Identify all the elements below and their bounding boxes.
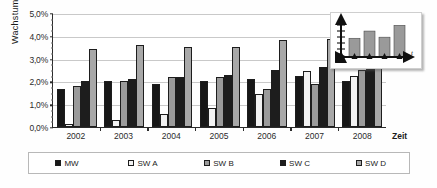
bar-sw-d-2003[interactable] xyxy=(136,45,144,127)
chart-legend: MWSW ASW BSW CSW D xyxy=(28,152,410,174)
bar-mw-2008[interactable] xyxy=(342,81,350,127)
legend-label: SW A xyxy=(137,159,157,168)
inset-thumbnail-chart[interactable]: t xyxy=(330,12,422,69)
bar-sw-d-2002[interactable] xyxy=(89,49,97,127)
bar-sw-a-2004[interactable] xyxy=(160,114,168,127)
bar-sw-a-2008[interactable] xyxy=(350,76,358,127)
x-tick-mark xyxy=(290,127,291,131)
bar-sw-c-2007[interactable] xyxy=(319,67,327,127)
x-tick-label-2004: 2004 xyxy=(147,131,195,145)
legend-label: SW D xyxy=(365,159,386,168)
legend-swatch-icon xyxy=(280,160,286,166)
bar-sw-a-2002[interactable] xyxy=(65,124,73,127)
legend-swatch-icon xyxy=(128,160,134,166)
bar-mw-2007[interactable] xyxy=(295,76,303,127)
bar-mw-2004[interactable] xyxy=(152,84,160,127)
bar-sw-b-2007[interactable] xyxy=(311,84,319,127)
legend-swatch-icon xyxy=(55,160,61,166)
bar-group-2003 xyxy=(101,14,149,127)
x-tick-label-2003: 2003 xyxy=(100,131,148,145)
inset-bar xyxy=(394,25,405,57)
legend-label: SW B xyxy=(213,159,233,168)
bar-sw-c-2008[interactable] xyxy=(366,63,374,127)
bar-sw-b-2008[interactable] xyxy=(358,70,366,127)
x-tick-label-2006: 2006 xyxy=(243,131,291,145)
y-tick-label: 0,0% xyxy=(29,123,48,133)
bar-sw-c-2003[interactable] xyxy=(128,79,136,127)
x-axis-title: Zeit xyxy=(392,131,407,141)
bar-sw-c-2004[interactable] xyxy=(176,77,184,127)
legend-swatch-icon xyxy=(204,160,210,166)
bar-mw-2003[interactable] xyxy=(104,81,112,127)
bar-sw-c-2006[interactable] xyxy=(271,70,279,127)
x-tick-mark xyxy=(243,127,244,131)
legend-item-sw-d[interactable]: SW D xyxy=(333,159,409,168)
x-tick-mark xyxy=(100,127,101,131)
legend-item-mw[interactable]: MW xyxy=(29,159,105,168)
legend-label: SW C xyxy=(289,159,310,168)
y-tick-mark xyxy=(50,127,53,128)
bar-sw-d-2004[interactable] xyxy=(184,47,192,127)
x-tick-mark xyxy=(195,127,196,131)
y-tick-label: 1,0% xyxy=(29,100,48,110)
bar-sw-a-2007[interactable] xyxy=(303,71,311,127)
x-axis-ticks: 2002200320042005200620072008 xyxy=(52,131,386,145)
chart-figure: Wachstum 0,0%1,0%2,0%3,0%4,0%5,0% 200220… xyxy=(0,0,437,188)
inset-x-axis-label: t xyxy=(411,49,414,57)
x-tick-label-2005: 2005 xyxy=(195,131,243,145)
y-axis-title: Wachstum xyxy=(10,0,20,44)
bar-group-2004 xyxy=(148,14,196,127)
bar-group-2002 xyxy=(53,14,101,127)
legend-swatch-icon xyxy=(356,160,362,166)
bar-sw-d-2005[interactable] xyxy=(232,47,240,127)
y-tick-label: 3,0% xyxy=(29,55,48,65)
bar-sw-a-2005[interactable] xyxy=(208,108,216,127)
legend-label: MW xyxy=(64,159,78,168)
y-tick-label: 4,0% xyxy=(29,32,48,42)
bar-sw-b-2006[interactable] xyxy=(263,89,271,127)
y-tick-label: 5,0% xyxy=(29,9,48,19)
bar-mw-2005[interactable] xyxy=(200,81,208,127)
bar-mw-2006[interactable] xyxy=(247,79,255,127)
legend-item-sw-a[interactable]: SW A xyxy=(105,159,181,168)
bar-sw-a-2006[interactable] xyxy=(255,94,263,127)
x-tick-mark xyxy=(147,127,148,131)
x-tick-label-2008: 2008 xyxy=(338,131,386,145)
bar-sw-b-2002[interactable] xyxy=(73,86,81,127)
bar-sw-b-2003[interactable] xyxy=(120,81,128,127)
legend-item-sw-c[interactable]: SW C xyxy=(257,159,333,168)
inset-bars xyxy=(349,25,405,57)
x-tick-mark xyxy=(338,127,339,131)
x-tick-label-2007: 2007 xyxy=(291,131,339,145)
legend-item-sw-b[interactable]: SW B xyxy=(181,159,257,168)
y-tick-label: 2,0% xyxy=(29,77,48,87)
x-tick-label-2002: 2002 xyxy=(52,131,100,145)
inset-svg: t xyxy=(331,13,421,68)
bar-sw-b-2005[interactable] xyxy=(216,77,224,127)
bar-sw-d-2006[interactable] xyxy=(279,40,287,127)
bar-sw-c-2005[interactable] xyxy=(224,75,232,127)
bar-mw-2002[interactable] xyxy=(57,89,65,127)
bar-sw-b-2004[interactable] xyxy=(168,77,176,127)
bar-group-2005 xyxy=(196,14,244,127)
bar-sw-a-2003[interactable] xyxy=(112,120,120,127)
bar-group-2006 xyxy=(243,14,291,127)
bar-sw-c-2002[interactable] xyxy=(81,81,89,127)
